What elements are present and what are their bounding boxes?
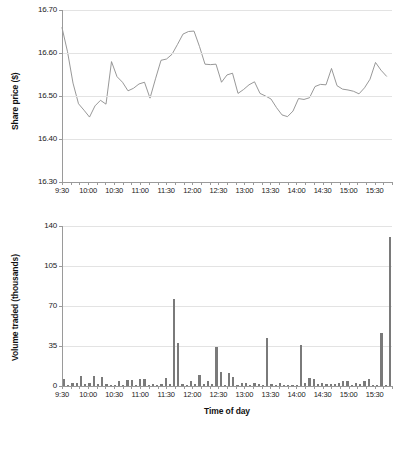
x-tick — [349, 182, 350, 185]
volume-bar — [334, 384, 336, 386]
share-price-plot-area — [62, 10, 392, 182]
gridline — [62, 306, 392, 307]
x-tick — [123, 182, 124, 185]
x-tick — [288, 182, 289, 185]
y-tick-label: 35 — [49, 341, 58, 350]
x-tick — [192, 386, 193, 389]
x-tick-label: 14:00 — [282, 390, 310, 399]
volume-bar — [317, 384, 319, 386]
x-tick — [236, 386, 237, 389]
y-axis-line — [62, 10, 63, 182]
x-tick — [375, 182, 376, 185]
x-tick — [244, 386, 245, 389]
volume-bar — [126, 380, 128, 386]
gridline — [62, 96, 392, 97]
x-tick — [140, 386, 141, 389]
volume-bar — [215, 347, 217, 386]
x-tick — [184, 182, 185, 185]
x-tick — [97, 386, 98, 389]
volume-bar — [63, 379, 65, 386]
share-price-chart-panel: Share price ($) 16.3016.4016.5016.6016.7… — [0, 0, 407, 208]
x-tick — [314, 182, 315, 185]
y-axis-line — [62, 226, 63, 386]
x-tick-label: 9:30 — [48, 186, 76, 195]
x-tick — [79, 182, 80, 185]
volume-bar — [325, 384, 327, 386]
x-tick-label: 13:30 — [256, 186, 284, 195]
x-tick — [383, 182, 384, 185]
gridline — [62, 53, 392, 54]
x-tick — [62, 386, 63, 389]
x-tick — [166, 386, 167, 389]
volume-bar — [228, 373, 230, 386]
volume-bar — [389, 237, 391, 386]
x-tick — [149, 386, 150, 389]
volume-bar — [258, 384, 260, 386]
x-tick — [88, 386, 89, 389]
volume-bar — [139, 379, 141, 386]
gridline — [62, 10, 392, 11]
x-tick — [71, 182, 72, 185]
volume-bar — [266, 338, 268, 386]
x-tick — [201, 182, 202, 185]
y-tick-label: 16.40 — [38, 134, 57, 143]
volume-bar — [101, 377, 103, 386]
x-tick — [131, 182, 132, 185]
volume-bar — [283, 385, 285, 386]
x-tick-label: 10:00 — [74, 390, 102, 399]
x-tick — [175, 182, 176, 185]
x-tick — [253, 182, 254, 185]
volume-bar — [152, 384, 154, 386]
x-tick — [357, 182, 358, 185]
volume-bar — [313, 379, 315, 386]
volume-bar — [84, 384, 86, 386]
x-tick — [71, 386, 72, 389]
volume-bar — [67, 385, 69, 386]
x-tick — [184, 386, 185, 389]
volume-bar — [351, 385, 353, 386]
x-tick — [123, 386, 124, 389]
volume-bar — [308, 378, 310, 386]
x-tick-label: 14:00 — [282, 186, 310, 195]
price-series-path — [62, 28, 387, 117]
volume-bar — [300, 345, 302, 386]
x-tick — [279, 182, 280, 185]
x-tick-label: 9:30 — [48, 390, 76, 399]
x-tick-label: 12:30 — [204, 390, 232, 399]
x-tick — [97, 182, 98, 185]
x-tick — [314, 386, 315, 389]
x-tick — [270, 182, 271, 185]
x-tick-label: 12:00 — [178, 186, 206, 195]
stock-chart-figure: Share price ($) 16.3016.4016.5016.6016.7… — [0, 0, 407, 450]
x-tick-label: 11:30 — [152, 186, 180, 195]
x-tick — [131, 386, 132, 389]
x-tick — [140, 182, 141, 185]
x-tick — [340, 182, 341, 185]
y-tick-label: 16.70 — [38, 5, 57, 14]
x-tick — [366, 182, 367, 185]
gridline — [62, 226, 392, 227]
volume-bar — [291, 385, 293, 386]
x-tick — [288, 386, 289, 389]
volume-bar — [93, 376, 95, 386]
x-tick-label: 11:00 — [126, 390, 154, 399]
x-tick — [331, 182, 332, 185]
x-tick — [279, 386, 280, 389]
x-tick — [253, 386, 254, 389]
x-tick — [305, 386, 306, 389]
x-tick — [331, 386, 332, 389]
x-tick — [201, 386, 202, 389]
y-tick — [59, 306, 62, 307]
gridline — [62, 346, 392, 347]
volume-bar — [186, 385, 188, 386]
volume-bar — [342, 381, 344, 386]
y-tick-label: 16.30 — [38, 177, 57, 186]
volume-bar — [372, 385, 374, 386]
share-price-y-axis-title: Share price ($) — [10, 72, 20, 130]
x-tick — [296, 386, 297, 389]
y-tick — [59, 346, 62, 347]
volume-bar — [232, 377, 234, 386]
x-tick — [323, 386, 324, 389]
volume-bar — [359, 384, 361, 386]
volume-bar — [110, 385, 112, 386]
